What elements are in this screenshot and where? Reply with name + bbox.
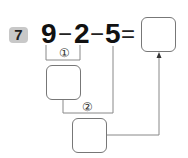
step-label-2: ② xyxy=(82,101,93,113)
step1-box[interactable] xyxy=(46,65,81,100)
step2-box[interactable] xyxy=(72,118,107,153)
step-label-1: ① xyxy=(59,47,70,59)
